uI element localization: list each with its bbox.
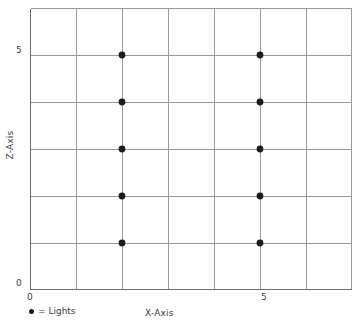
data-point [257,99,264,106]
grid-and-points-svg [30,8,352,290]
data-point [119,193,126,200]
data-point [119,52,126,59]
x-axis-tick-0: 0 [27,292,33,302]
legend: = Lights [29,306,76,316]
data-point [119,146,126,153]
data-point [257,193,264,200]
gridlines [30,8,352,290]
data-point [257,52,264,59]
plot-area [30,8,352,290]
chart-root: 5 0 0 5 X-Axis Z-Axis = Lights [0,0,362,325]
data-point [257,146,264,153]
data-point [119,240,126,247]
legend-marker-icon [29,309,34,314]
data-point [119,99,126,106]
y-axis-tick-5: 5 [16,45,22,55]
y-axis-tick-0: 0 [16,278,22,288]
y-axis-title: Z-Axis [5,123,15,167]
x-axis-tick-5: 5 [261,292,267,302]
legend-label: = Lights [38,306,76,316]
x-axis-title: X-Axis [145,308,174,318]
data-point [257,240,264,247]
